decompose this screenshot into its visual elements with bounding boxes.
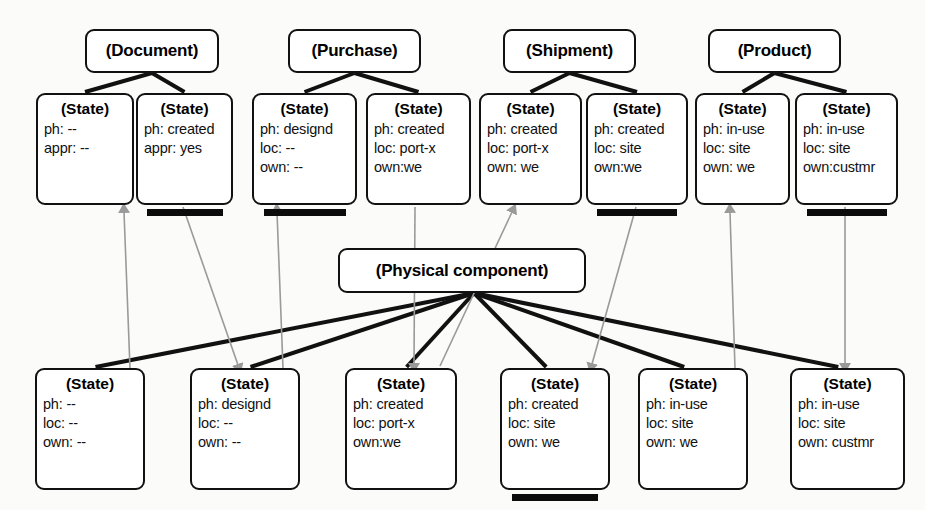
state-attribute: own:we <box>374 158 469 177</box>
state-attribute: ph: -- <box>44 120 132 139</box>
state-attribute-list: ph: createdloc: port-xown: we <box>481 120 580 177</box>
state-attribute: ph: created <box>594 120 686 139</box>
state-node-t4[interactable]: (State)ph: createdloc: port-xown:we <box>366 93 471 205</box>
state-attribute: loc: -- <box>198 414 298 433</box>
state-attribute: loc: site <box>703 139 788 158</box>
state-attribute: loc: site <box>798 414 903 433</box>
state-attribute: loc: site <box>594 139 686 158</box>
state-node-title: (State) <box>792 375 903 395</box>
state-node-t7[interactable]: (State)ph: in-useloc: siteown: we <box>695 93 790 205</box>
edge-physical-to-b5 <box>474 293 684 367</box>
state-node-title: (State) <box>138 100 231 120</box>
state-node-t6[interactable]: (State)ph: createdloc: siteown:we <box>586 93 688 205</box>
state-node-b6[interactable]: (State)ph: in-useloc: siteown: custmr <box>790 368 905 490</box>
state-node-title: (State) <box>368 100 469 120</box>
state-attribute-list: ph: in-useloc: siteown: custmr <box>792 395 903 452</box>
state-attribute: ph: in-use <box>798 395 903 414</box>
state-attribute: ph: created <box>144 120 231 139</box>
class-node-label: (Purchase) <box>312 41 398 61</box>
edge-product-to-t7 <box>743 73 775 92</box>
edge-physical-to-b2 <box>251 293 475 367</box>
state-underline-bar-t2 <box>147 209 223 216</box>
state-attribute: ph: created <box>353 395 455 414</box>
state-attribute: own: -- <box>43 433 143 452</box>
state-attribute: ph: created <box>508 395 608 414</box>
state-node-title: (State) <box>347 375 455 395</box>
gray-edge-t2-b2 <box>183 207 238 365</box>
state-attribute-list: ph: --loc: --own: -- <box>37 395 143 452</box>
state-attribute: ph: created <box>487 120 580 139</box>
state-attribute: loc: site <box>646 414 746 433</box>
state-node-t1[interactable]: (State)ph: --appr: -- <box>36 93 134 205</box>
edge-physical-to-b6 <box>474 293 838 367</box>
state-node-title: (State) <box>38 100 132 120</box>
state-attribute: loc: site <box>803 139 896 158</box>
state-attribute: loc: port-x <box>353 414 455 433</box>
state-node-t5[interactable]: (State)ph: createdloc: port-xown: we <box>479 93 582 205</box>
state-attribute: own:we <box>353 433 455 452</box>
edge-purchase-to-t3 <box>305 73 355 92</box>
state-node-b3[interactable]: (State)ph: createdloc: port-xown:we <box>345 368 457 490</box>
state-attribute-list: ph: createdloc: siteown: we <box>502 395 608 452</box>
state-attribute-list: ph: in-useloc: siteown: we <box>697 120 788 177</box>
edge-physical-to-b3 <box>407 293 474 367</box>
state-underline-bar-t3 <box>264 209 346 216</box>
state-node-t2[interactable]: (State)ph: createdappr: yes <box>136 93 233 205</box>
state-attribute: ph: designd <box>198 395 298 414</box>
state-attribute: ph: in-use <box>803 120 896 139</box>
state-attribute-list: ph: createdloc: port-xown:we <box>368 120 469 177</box>
state-attribute: own: we <box>646 433 746 452</box>
state-node-t3[interactable]: (State)ph: designdloc: --own: -- <box>252 93 357 205</box>
state-attribute: own: we <box>508 433 608 452</box>
class-node-purchase[interactable]: (Purchase) <box>288 29 421 73</box>
state-attribute-list: ph: createdloc: port-xown:we <box>347 395 455 452</box>
state-attribute-list: ph: in-useloc: siteown: we <box>640 395 746 452</box>
state-underline-bar-t8 <box>807 209 887 216</box>
state-attribute-list: ph: --appr: -- <box>38 120 132 158</box>
state-attribute: loc: site <box>508 414 608 433</box>
state-attribute: appr: yes <box>144 139 231 158</box>
gray-edge-t6-b4 <box>592 207 636 364</box>
state-attribute: own: we <box>703 158 788 177</box>
state-attribute: ph: created <box>374 120 469 139</box>
class-node-document[interactable]: (Document) <box>85 29 219 73</box>
state-attribute: loc: -- <box>43 414 143 433</box>
state-attribute: own:we <box>594 158 686 177</box>
edge-shipment-to-t6 <box>570 73 638 92</box>
edge-physical-to-b1 <box>96 293 475 367</box>
edge-document-to-t1 <box>85 73 152 92</box>
class-node-physical[interactable]: (Physical component) <box>338 248 586 293</box>
state-attribute: own: we <box>487 158 580 177</box>
class-node-shipment[interactable]: (Shipment) <box>503 29 636 73</box>
state-attribute: ph: in-use <box>646 395 746 414</box>
state-node-t8[interactable]: (State)ph: in-useloc: siteown:custmr <box>795 93 898 205</box>
state-node-b5[interactable]: (State)ph: in-useloc: siteown: we <box>638 368 748 490</box>
class-node-product[interactable]: (Product) <box>708 29 841 73</box>
class-node-label: (Physical component) <box>376 261 549 281</box>
state-attribute: loc: port-x <box>374 139 469 158</box>
state-node-b4[interactable]: (State)ph: createdloc: siteown: we <box>500 368 610 490</box>
state-node-title: (State) <box>481 100 580 120</box>
edge-shipment-to-t5 <box>531 73 570 92</box>
state-node-title: (State) <box>697 100 788 120</box>
state-node-b1[interactable]: (State)ph: --loc: --own: -- <box>35 368 145 490</box>
gray-edge-b5-t7 <box>730 212 735 368</box>
state-attribute: own:custmr <box>803 158 896 177</box>
state-attribute: ph: designd <box>260 120 355 139</box>
state-attribute-list: ph: in-useloc: siteown:custmr <box>797 120 896 177</box>
state-node-title: (State) <box>37 375 143 395</box>
state-node-b2[interactable]: (State)ph: designdloc: --own: -- <box>190 368 300 490</box>
gray-edge-b1-t1 <box>124 212 130 368</box>
gray-edge-b2-t3 <box>277 212 283 368</box>
state-underline-bar-b4 <box>512 494 598 501</box>
state-attribute: own: custmr <box>798 433 903 452</box>
state-node-title: (State) <box>797 100 896 120</box>
edge-document-to-t2 <box>152 73 185 92</box>
state-attribute: own: -- <box>198 433 298 452</box>
diagram-canvas: (Document)(Purchase)(Shipment)(Product)(… <box>0 0 925 510</box>
state-underline-bar-t6 <box>597 209 677 216</box>
state-attribute: loc: port-x <box>487 139 580 158</box>
edge-physical-to-b4 <box>474 293 546 367</box>
state-attribute-list: ph: designdloc: --own: -- <box>192 395 298 452</box>
state-attribute-list: ph: createdloc: siteown:we <box>588 120 686 177</box>
